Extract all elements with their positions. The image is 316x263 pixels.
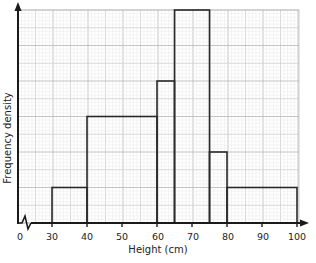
tick-label-30: 30 (46, 231, 58, 242)
graph-paper-grid (18, 10, 299, 223)
y-axis-arrow-icon (15, 2, 22, 11)
tick-label-50: 50 (116, 231, 128, 242)
axis-break-zigzag-icon (18, 216, 31, 229)
tick-label-40: 40 (81, 231, 93, 242)
x-axis-tick-labels: 0 30 40 50 60 70 80 90 100 (17, 231, 306, 242)
tick-label-90: 90 (257, 231, 269, 242)
x-axis-arrow-icon (300, 220, 309, 227)
x-axis-title: Height (cm) (128, 244, 187, 255)
y-axis-title: Frequency density (2, 92, 13, 184)
tick-label-0: 0 (17, 231, 23, 242)
histogram-chart: 0 30 40 50 60 70 80 90 100 Height (cm) F… (0, 0, 316, 263)
tick-label-60: 60 (152, 231, 164, 242)
tick-label-100: 100 (288, 231, 306, 242)
tick-label-80: 80 (222, 231, 234, 242)
tick-label-70: 70 (187, 231, 199, 242)
